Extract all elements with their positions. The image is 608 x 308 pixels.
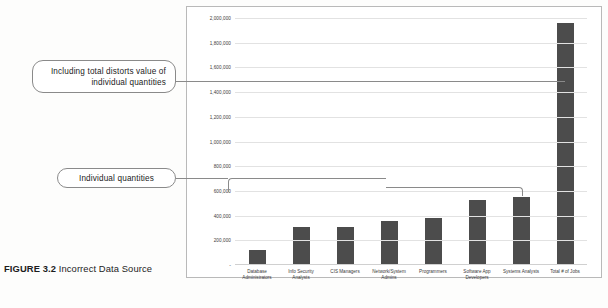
figure-title: Incorrect Data Source: [56, 263, 152, 274]
x-axis-label: Network/System Admins: [367, 269, 411, 281]
figure-number: FIGURE 3.2: [4, 263, 56, 274]
y-axis-tick-label: 1,400,000: [210, 90, 231, 95]
bar: [337, 227, 354, 265]
individual-quantities-bracket-right: [386, 187, 523, 196]
bar: [557, 23, 574, 265]
callout-including-total-text: Including total distorts value of indivi…: [42, 66, 166, 88]
gridline: [235, 92, 587, 93]
callout-individual-quantities-text: Individual quantities: [66, 173, 167, 184]
callout-individual-quantities: Individual quantities: [57, 168, 176, 188]
gridline: [235, 166, 587, 167]
axis-baseline: [235, 264, 587, 265]
y-axis-tick-label: 400,000: [214, 213, 231, 218]
gridline: [235, 67, 587, 68]
x-axis-label: Systems Analysts: [499, 269, 543, 281]
bar: [381, 221, 398, 265]
bar: [469, 200, 486, 265]
y-axis-tick-label: 1,200,000: [210, 114, 231, 119]
x-axis-label: CIS Managers: [323, 269, 367, 281]
y-axis-tick-label: 1,600,000: [210, 65, 231, 70]
figure-container: 2,000,0001,800,0001,600,0001,400,0001,20…: [0, 0, 608, 308]
x-axis-label: Total # of Jobs: [543, 269, 587, 281]
gridline: [235, 240, 587, 241]
plot-area: 2,000,0001,800,0001,600,0001,400,0001,20…: [235, 18, 587, 265]
bar: [513, 197, 530, 265]
bar: [425, 218, 442, 265]
gridline: [235, 142, 587, 143]
x-axis-label: Programmers: [411, 269, 455, 281]
x-axis-labels: Database AdministratorsInfo Security Ana…: [235, 269, 587, 281]
gridline: [235, 117, 587, 118]
gridline: [235, 216, 587, 217]
gridline: [235, 43, 587, 44]
bar: [293, 227, 310, 265]
individual-quantities-bracket-left: [228, 178, 386, 192]
total-callout-leader-line: [176, 81, 565, 82]
gridline: [235, 18, 587, 19]
y-axis-tick-label: 200,000: [214, 238, 231, 243]
x-axis-label: Database Administrators: [235, 269, 279, 281]
y-axis-tick-label: 1,800,000: [210, 40, 231, 45]
callout-including-total: Including total distorts value of indivi…: [32, 60, 176, 93]
individual-callout-leader-line: [176, 178, 228, 179]
x-axis-label: Info Security Analysts: [279, 269, 323, 281]
y-axis-tick-label: 1,000,000: [210, 139, 231, 144]
figure-caption: FIGURE 3.2 Incorrect Data Source: [4, 263, 180, 276]
chart-panel: 2,000,0001,800,0001,600,0001,400,0001,20…: [186, 6, 602, 278]
y-axis-tick-label: 800,000: [214, 164, 231, 169]
bar: [249, 250, 266, 265]
y-axis-tick-label: 2,000,000: [210, 16, 231, 21]
x-axis-label: Software App Developers: [455, 269, 499, 281]
y-axis-tick-label: -: [229, 262, 231, 268]
